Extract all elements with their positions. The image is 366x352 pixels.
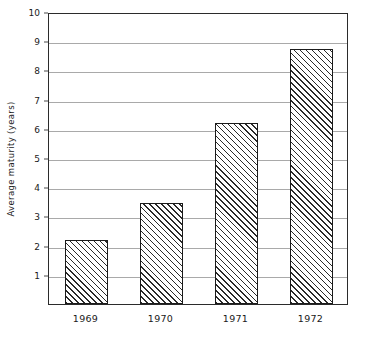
y-axis-tick-label: 3: [34, 212, 40, 222]
bar: [65, 240, 108, 304]
gridline: [49, 43, 347, 44]
x-axis-tick-labels: 1969197019711972: [48, 309, 348, 335]
y-axis-tick-label: 4: [34, 183, 40, 193]
bar: [140, 203, 183, 304]
y-axis-tick-label: 1: [34, 271, 40, 281]
bar-chart: Average maturity (years) 12345678910 196…: [0, 0, 366, 352]
bar: [215, 123, 258, 304]
bar: [290, 49, 333, 305]
y-axis-tick-label: 10: [29, 8, 40, 18]
y-axis-title: Average maturity (years): [0, 0, 22, 318]
y-axis-tick-label: 2: [34, 242, 40, 252]
y-axis-tick-label: 5: [34, 154, 40, 164]
x-axis-tick-label: 1969: [73, 313, 98, 324]
y-axis-tick-labels: 12345678910: [24, 0, 44, 318]
plot-area: [48, 13, 348, 305]
x-axis-tick-label: 1970: [148, 313, 173, 324]
y-axis-tick-label: 9: [34, 37, 40, 47]
y-axis-tick-label: 7: [34, 96, 40, 106]
y-axis-title-text: Average maturity (years): [6, 101, 16, 216]
x-axis-tick-label: 1971: [223, 313, 248, 324]
x-axis-tick-label: 1972: [298, 313, 323, 324]
y-axis-tick-label: 8: [34, 66, 40, 76]
y-axis-tick-label: 6: [34, 125, 40, 135]
